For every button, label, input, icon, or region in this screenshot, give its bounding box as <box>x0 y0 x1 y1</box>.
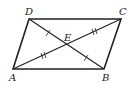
label-d: D <box>24 6 33 17</box>
label-b: B <box>101 72 109 83</box>
label-c: C <box>119 6 127 17</box>
parallelogram-diagram: D C E A B <box>0 0 128 90</box>
label-e: E <box>63 32 72 43</box>
label-a: A <box>8 72 16 83</box>
diagonal-bd <box>29 19 104 69</box>
